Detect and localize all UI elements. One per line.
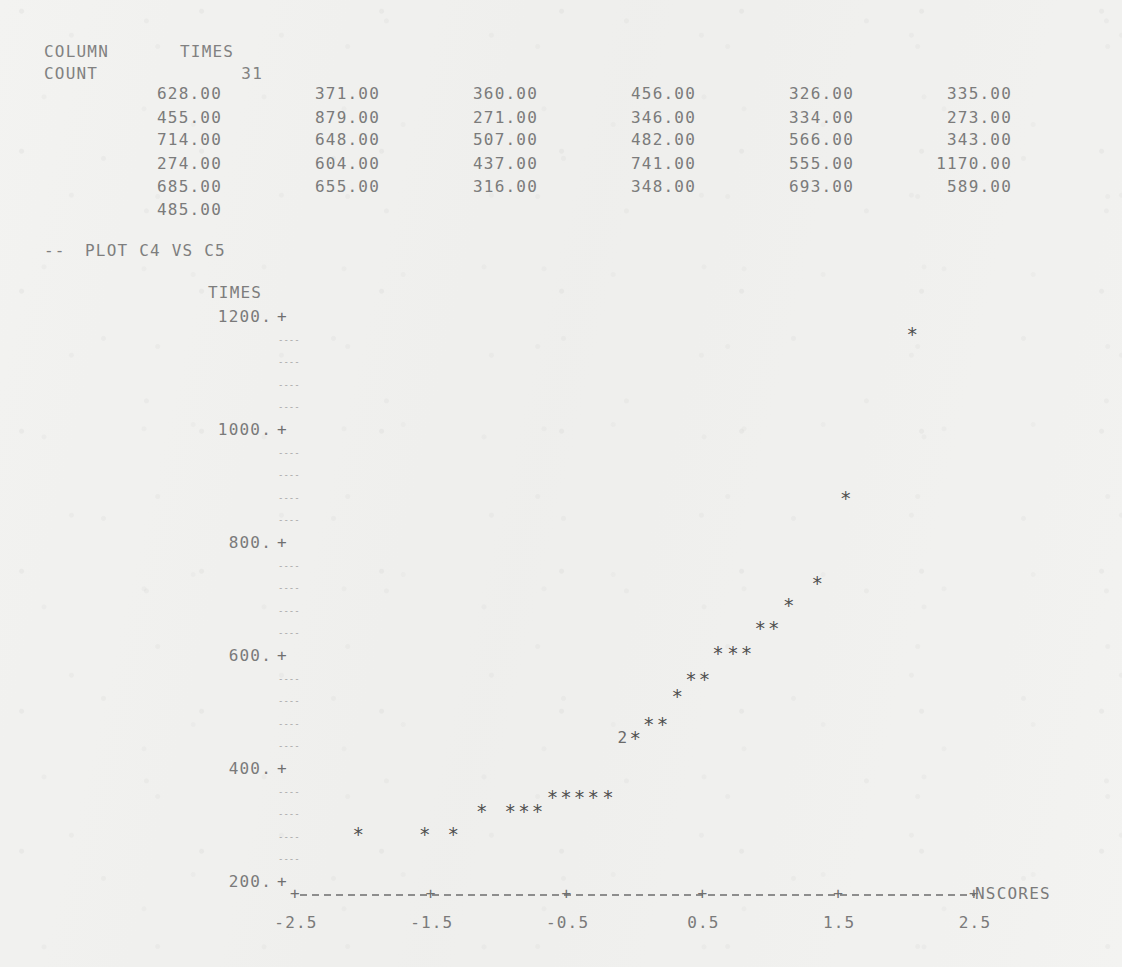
y-axis-tick-mark: + bbox=[277, 761, 288, 777]
y-axis-tick-mark: + bbox=[277, 648, 288, 664]
x-axis-tick-label: 0.5 bbox=[643, 915, 763, 931]
listing-count-label: COUNT bbox=[44, 66, 98, 82]
plot-point: * bbox=[547, 788, 561, 807]
y-axis-minor-tick: ---- bbox=[278, 675, 300, 684]
x-axis-tick-mark: + bbox=[290, 886, 301, 902]
listing-value: 437.00 bbox=[388, 156, 538, 172]
listing-value: 566.00 bbox=[704, 132, 854, 148]
y-axis-minor-tick: ---- bbox=[278, 449, 300, 458]
plot-point: * bbox=[560, 788, 574, 807]
y-axis-tick-label: 200. bbox=[180, 874, 272, 890]
plot-point: * bbox=[587, 788, 601, 807]
listing-value: 455.00 bbox=[72, 110, 222, 126]
plot-point: * bbox=[685, 670, 699, 689]
listing-value: 604.00 bbox=[230, 156, 380, 172]
plot-point: * bbox=[505, 802, 519, 821]
listing-value: 371.00 bbox=[230, 86, 380, 102]
listing-value: 271.00 bbox=[388, 110, 538, 126]
listing-value: 879.00 bbox=[230, 110, 380, 126]
listing-value: 348.00 bbox=[546, 179, 696, 195]
x-axis-tick-mark: + bbox=[697, 886, 708, 902]
listing-value: 741.00 bbox=[546, 156, 696, 172]
y-axis-tick-mark: + bbox=[277, 309, 288, 325]
listing-value: 343.00 bbox=[862, 132, 1012, 148]
plot-point: * bbox=[630, 729, 644, 748]
plot-point: * bbox=[574, 788, 588, 807]
printout-page: COLUMN TIMES COUNT 31 628.00371.00360.00… bbox=[0, 0, 1122, 967]
plot-point: * bbox=[476, 802, 490, 821]
y-axis-minor-tick: ---- bbox=[278, 697, 300, 706]
y-axis-tick-mark: + bbox=[277, 874, 288, 890]
listing-value: 316.00 bbox=[388, 179, 538, 195]
y-axis-minor-tick: ---- bbox=[278, 494, 300, 503]
y-axis-tick-mark: + bbox=[277, 422, 288, 438]
y-axis-minor-tick: ---- bbox=[278, 810, 300, 819]
plot-point: * bbox=[419, 825, 433, 844]
y-axis-minor-tick: ---- bbox=[278, 471, 300, 480]
x-axis-tick-label: -1.5 bbox=[372, 915, 492, 931]
y-axis-tick-label: 400. bbox=[180, 761, 272, 777]
y-axis-minor-tick: ---- bbox=[278, 516, 300, 525]
listing-value: 628.00 bbox=[72, 86, 222, 102]
listing-value: 1170.00 bbox=[862, 156, 1012, 172]
y-axis-minor-tick: ---- bbox=[278, 584, 300, 593]
listing-value: 456.00 bbox=[546, 86, 696, 102]
listing-column-name: TIMES bbox=[180, 44, 234, 60]
y-axis-minor-tick: ---- bbox=[278, 336, 300, 345]
command-prompt: -- bbox=[44, 243, 66, 259]
listing-value: 485.00 bbox=[72, 202, 222, 218]
y-axis-tick-label: 1000. bbox=[180, 422, 272, 438]
plot-point: * bbox=[907, 325, 921, 344]
y-axis-tick-label: 800. bbox=[180, 535, 272, 551]
y-axis-minor-tick: ---- bbox=[278, 720, 300, 729]
listing-value: 360.00 bbox=[388, 86, 538, 102]
plot-point: * bbox=[727, 644, 741, 663]
x-axis-tick-label: 1.5 bbox=[779, 915, 899, 931]
listing-value: 346.00 bbox=[546, 110, 696, 126]
plot-point: * bbox=[754, 619, 768, 638]
listing-count-value: 31 bbox=[215, 66, 263, 82]
x-axis-tick-label: 2.5 bbox=[915, 915, 1035, 931]
x-axis-tick-label: -0.5 bbox=[508, 915, 628, 931]
plot-point: * bbox=[811, 574, 825, 593]
plot-point: * bbox=[699, 670, 713, 689]
plot-point: * bbox=[840, 489, 854, 508]
listing-value: 685.00 bbox=[72, 179, 222, 195]
y-axis-tick-label: 1200. bbox=[180, 309, 272, 325]
command-text: PLOT C4 VS C5 bbox=[85, 243, 226, 259]
x-axis-tick-mark: + bbox=[562, 886, 573, 902]
listing-column-label: COLUMN bbox=[44, 44, 109, 60]
plot-point: * bbox=[657, 715, 671, 734]
listing-value: 648.00 bbox=[230, 132, 380, 148]
listing-value: 482.00 bbox=[546, 132, 696, 148]
x-axis-rule bbox=[300, 894, 975, 896]
listing-value: 589.00 bbox=[862, 179, 1012, 195]
plot-point: * bbox=[712, 644, 726, 663]
y-axis-minor-tick: ---- bbox=[278, 607, 300, 616]
x-axis-title: NSCORES bbox=[975, 886, 1051, 902]
plot-point-count: 2 bbox=[618, 730, 628, 746]
plot-point: * bbox=[672, 687, 686, 706]
listing-value: 655.00 bbox=[230, 179, 380, 195]
plot-point: * bbox=[352, 825, 366, 844]
listing-value: 326.00 bbox=[704, 86, 854, 102]
listing-value: 693.00 bbox=[704, 179, 854, 195]
plot-point: * bbox=[741, 644, 755, 663]
y-axis-minor-tick: ---- bbox=[278, 855, 300, 864]
listing-value: 507.00 bbox=[388, 132, 538, 148]
y-axis-minor-tick: ---- bbox=[278, 358, 300, 367]
plot-point: * bbox=[448, 825, 462, 844]
plot-point: * bbox=[532, 802, 546, 821]
listing-value: 555.00 bbox=[704, 156, 854, 172]
y-axis-minor-tick: ---- bbox=[278, 629, 300, 638]
x-axis-tick-mark: + bbox=[426, 886, 437, 902]
y-axis-minor-tick: ---- bbox=[278, 403, 300, 412]
listing-value: 334.00 bbox=[704, 110, 854, 126]
y-axis-minor-tick: ---- bbox=[278, 742, 300, 751]
plot-point: * bbox=[518, 802, 532, 821]
x-axis-tick-mark: + bbox=[833, 886, 844, 902]
y-axis-tick-mark: + bbox=[277, 535, 288, 551]
x-axis-tick-label: -2.5 bbox=[236, 915, 356, 931]
y-axis-minor-tick: ---- bbox=[278, 833, 300, 842]
listing-value: 335.00 bbox=[862, 86, 1012, 102]
